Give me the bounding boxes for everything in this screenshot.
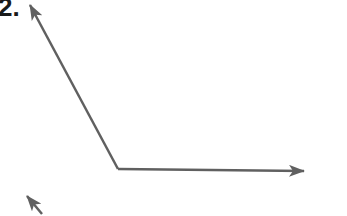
- ray-right: [118, 169, 304, 171]
- ray-upper-left: [30, 5, 118, 169]
- next-figure-arrow-icon: [27, 196, 42, 214]
- angle-diagram: [0, 0, 347, 216]
- angle-rays: [30, 5, 304, 171]
